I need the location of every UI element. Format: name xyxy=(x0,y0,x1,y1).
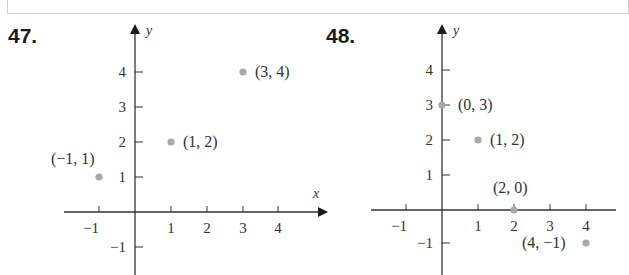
point-label: (0, 3) xyxy=(458,96,493,114)
y-tick-label: 4 xyxy=(426,62,434,78)
y-tick-label: 3 xyxy=(426,97,434,113)
x-ticks xyxy=(406,204,586,210)
x-tick-label: −1 xyxy=(83,220,99,236)
chart-48: 48. y −1 1 2 3 4 4 3 2 1 −1 (0, 3) xyxy=(326,23,616,275)
y-tick-label: 2 xyxy=(119,134,127,150)
point-label: (1, 2) xyxy=(490,131,525,149)
y-axis-label: y xyxy=(451,23,460,38)
y-axis-label: y xyxy=(144,23,153,38)
point-label: (−1, 1) xyxy=(51,150,95,168)
x-tick-label: 2 xyxy=(510,218,518,234)
chart-47: 47. y x −1 1 2 3 4 4 3 2 1 −1 xyxy=(8,23,326,275)
data-point xyxy=(167,138,174,145)
y-tick-label: 4 xyxy=(119,64,127,80)
y-tick-label: 2 xyxy=(426,132,434,148)
y-ticks xyxy=(135,72,143,247)
y-tick-label: 3 xyxy=(119,99,127,115)
y-tick-label: −1 xyxy=(110,239,126,255)
x-tick-label: 1 xyxy=(474,218,482,234)
x-tick-label: 4 xyxy=(274,220,282,236)
x-ticks xyxy=(99,206,278,212)
x-tick-label: 3 xyxy=(239,220,247,236)
problem-number-47: 47. xyxy=(8,24,37,47)
data-point xyxy=(239,68,246,75)
point-label: (2, 0) xyxy=(493,179,528,197)
x-tick-label: −1 xyxy=(391,218,407,234)
x-tick-label: 4 xyxy=(582,218,590,234)
y-tick-label: −1 xyxy=(417,235,433,251)
data-point xyxy=(582,239,589,246)
data-point xyxy=(95,173,102,180)
point-label: (3, 4) xyxy=(255,63,290,81)
x-tick-label: 3 xyxy=(546,218,554,234)
y-ticks xyxy=(442,70,450,243)
point-label: (1, 2) xyxy=(183,133,218,151)
y-tick-label: 1 xyxy=(119,169,127,185)
data-point xyxy=(474,136,481,143)
data-point xyxy=(438,101,445,108)
problem-number-48: 48. xyxy=(326,24,355,47)
x-tick-label: 2 xyxy=(203,220,211,236)
point-label: (4, −1) xyxy=(522,234,566,252)
data-point xyxy=(510,206,517,213)
y-tick-label: 1 xyxy=(426,167,434,183)
x-axis-label: x xyxy=(312,186,320,201)
x-tick-label: 1 xyxy=(167,220,175,236)
